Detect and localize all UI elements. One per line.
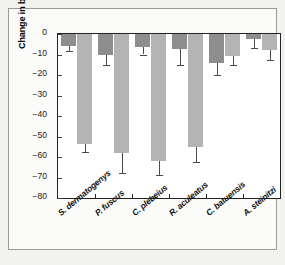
y-tick-mark (58, 34, 62, 35)
error-cap-light-bar-0 (82, 152, 89, 153)
bar-dark-bar-2 (135, 34, 150, 47)
y-tick-label: −50 (21, 130, 47, 140)
error-bar-light-bar-4 (233, 56, 234, 65)
error-cap-light-bar-5 (267, 60, 274, 61)
error-cap-dark-bar-4 (214, 75, 221, 76)
y-tick-mark (58, 137, 62, 138)
error-cap-dark-bar-3 (177, 65, 184, 66)
y-tick-label: −30 (21, 89, 47, 99)
y-tick-label: 0 (21, 27, 47, 37)
figure-border: Change in bite rate (per 5 min observati… (8, 8, 277, 250)
y-tick-label: −10 (21, 48, 47, 58)
bar-dark-bar-3 (172, 34, 187, 49)
error-bar-light-bar-2 (159, 161, 160, 175)
bar-dark-bar-1 (98, 34, 113, 55)
error-bar-light-bar-3 (196, 147, 197, 162)
y-tick-label: −70 (21, 171, 47, 181)
y-tick-mark (58, 55, 62, 56)
y-tick-mark (58, 116, 62, 117)
error-cap-dark-bar-5 (251, 48, 258, 49)
bar-dark-bar-4 (209, 34, 224, 63)
bar-light-bar-5 (262, 34, 277, 50)
y-tick-mark (58, 198, 62, 199)
error-cap-dark-bar-2 (140, 55, 147, 56)
error-cap-dark-bar-0 (66, 51, 73, 52)
error-cap-light-bar-3 (193, 162, 200, 163)
error-bar-light-bar-1 (122, 153, 123, 174)
y-tick-label: −80 (21, 191, 47, 201)
figure-background: Change in bite rate (per 5 min observati… (0, 0, 285, 265)
error-cap-light-bar-2 (156, 175, 163, 176)
plot-area (57, 33, 281, 199)
error-bar-light-bar-0 (85, 144, 86, 152)
bar-dark-bar-0 (61, 34, 76, 46)
bar-light-bar-2 (151, 34, 166, 161)
error-bar-light-bar-5 (270, 50, 271, 59)
bar-light-bar-0 (77, 34, 92, 144)
x-tick-mark (132, 194, 133, 198)
y-axis-title: Change in bite rate (per 5 min observati… (17, 0, 27, 49)
y-tick-mark (58, 157, 62, 158)
bar-light-bar-4 (225, 34, 240, 56)
y-tick-label: −60 (21, 150, 47, 160)
bar-light-bar-1 (114, 34, 129, 153)
error-cap-light-bar-1 (119, 173, 126, 174)
error-bar-dark-bar-1 (106, 55, 107, 65)
y-tick-mark (58, 96, 62, 97)
x-tick-mark (95, 194, 96, 198)
error-bar-dark-bar-3 (180, 49, 181, 64)
bar-light-bar-3 (188, 34, 203, 147)
y-tick-mark (58, 178, 62, 179)
y-tick-mark (58, 75, 62, 76)
error-bar-dark-bar-5 (254, 39, 255, 48)
error-cap-light-bar-4 (230, 65, 237, 66)
x-tick-mark (206, 194, 207, 198)
error-bar-dark-bar-4 (217, 63, 218, 75)
error-cap-dark-bar-1 (103, 65, 110, 66)
x-tick-mark (243, 194, 244, 198)
y-tick-label: −40 (21, 109, 47, 119)
y-tick-label: −20 (21, 68, 47, 78)
x-tick-mark (169, 194, 170, 198)
error-bar-dark-bar-2 (143, 47, 144, 54)
